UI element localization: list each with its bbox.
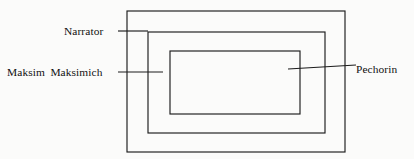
- label-pechorin: Pechorin: [356, 64, 397, 75]
- nested-frame-diagram: Narrator Maksim Maksimich Pechorin: [0, 0, 414, 159]
- label-maksim-maksimich: Maksim Maksimich: [7, 67, 103, 78]
- middle-frame-maksim-maksimich: [148, 32, 325, 133]
- diagram-canvas: [0, 0, 414, 159]
- inner-frame-pechorin: [170, 51, 300, 114]
- label-narrator: Narrator: [64, 26, 103, 37]
- pechorin-leader-line: [288, 65, 356, 69]
